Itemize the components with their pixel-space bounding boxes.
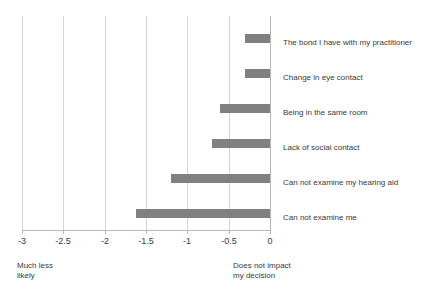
x-tick--2.5 bbox=[63, 230, 64, 234]
bar-being-in-the-same-room[interactable] bbox=[220, 104, 270, 113]
category-label-change-in-eye-contact: Change in eye contact bbox=[283, 73, 363, 82]
x-tick-label--1.5: -1.5 bbox=[126, 236, 166, 247]
category-label-can-not-examine-my-hearing-aid: Can not examine my hearing aid bbox=[283, 178, 398, 187]
x-tick-label--1: -1 bbox=[167, 236, 207, 247]
x-tick-label--2: -2 bbox=[85, 236, 125, 247]
category-label-lack-of-social-contact: Lack of social contact bbox=[283, 143, 359, 152]
plot-area bbox=[22, 16, 270, 230]
annotation-does-not-impact-my-decision: Does not impact my decision bbox=[233, 261, 291, 281]
bar-can-not-examine-me[interactable] bbox=[136, 209, 270, 218]
x-tick--1 bbox=[187, 230, 188, 234]
bar-row bbox=[22, 162, 270, 196]
bar-can-not-examine-my-hearing-aid[interactable] bbox=[171, 174, 270, 183]
x-tick--3 bbox=[22, 230, 23, 234]
bar-row bbox=[22, 197, 270, 231]
x-tick--0.5 bbox=[229, 230, 230, 234]
x-tick--1.5 bbox=[146, 230, 147, 234]
bar-row bbox=[22, 127, 270, 161]
x-tick-0 bbox=[270, 230, 271, 234]
x-tick--2 bbox=[105, 230, 106, 234]
x-tick-label-0: 0 bbox=[250, 236, 290, 247]
x-tick-label--2.5: -2.5 bbox=[43, 236, 83, 247]
category-label-the-bond-i-have-with-my-practitioner: The bond I have with my practitioner bbox=[283, 38, 412, 47]
bar-row bbox=[22, 57, 270, 91]
bar-lack-of-social-contact[interactable] bbox=[212, 139, 270, 148]
annotation-much-less-likely: Much less likely bbox=[17, 261, 53, 281]
bar-the-bond-i-have-with-my-practitioner[interactable] bbox=[245, 34, 270, 43]
bar-chart: The bond I have with my practitioner Cha… bbox=[0, 0, 433, 296]
category-label-being-in-the-same-room: Being in the same room bbox=[283, 108, 368, 117]
x-tick-label--0.5: -0.5 bbox=[209, 236, 249, 247]
value-axis-zero bbox=[270, 16, 271, 230]
bar-change-in-eye-contact[interactable] bbox=[245, 69, 270, 78]
bar-row bbox=[22, 92, 270, 126]
category-label-can-not-examine-me: Can not examine me bbox=[283, 213, 357, 222]
bar-row bbox=[22, 22, 270, 56]
x-tick-label--3: -3 bbox=[2, 236, 42, 247]
